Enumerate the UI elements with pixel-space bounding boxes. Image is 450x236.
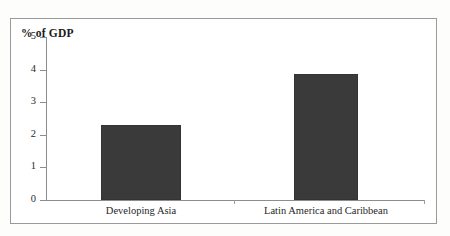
y-tick-label-wrap: 0 [2, 200, 36, 201]
y-tick-label-3: 3 [6, 96, 36, 107]
plot-area: 012345 Developing AsiaLatin America and … [0, 0, 450, 236]
chart-page: % of GDP 012345 Developing AsiaLatin Ame… [0, 0, 450, 236]
bar-1 [294, 74, 358, 200]
y-tick-label-wrap: 3 [2, 102, 36, 103]
y-tick-1 [40, 167, 46, 168]
category-label-1: Latin America and Caribbean [246, 205, 406, 218]
bar-0 [101, 125, 181, 200]
x-axis-line [46, 200, 425, 201]
y-axis-line [46, 37, 47, 201]
y-tick-label-1: 1 [6, 161, 36, 172]
y-tick-label-wrap: 5 [2, 37, 36, 38]
y-tick-label-wrap: 1 [2, 167, 36, 168]
y-tick-2 [40, 135, 46, 136]
y-tick-label-5: 5 [6, 31, 36, 42]
category-label-0: Developing Asia [61, 205, 221, 218]
y-tick-0 [40, 200, 46, 201]
y-tick-4 [40, 70, 46, 71]
y-tick-3 [40, 102, 46, 103]
y-tick-5 [40, 37, 46, 38]
y-tick-label-4: 4 [6, 64, 36, 75]
y-tick-label-2: 2 [6, 129, 36, 140]
y-tick-label-wrap: 4 [2, 70, 36, 71]
y-tick-label-wrap: 2 [2, 135, 36, 136]
x-axis-endtick [424, 200, 425, 204]
x-axis-midtick [234, 200, 235, 204]
y-tick-label-0: 0 [6, 194, 36, 205]
